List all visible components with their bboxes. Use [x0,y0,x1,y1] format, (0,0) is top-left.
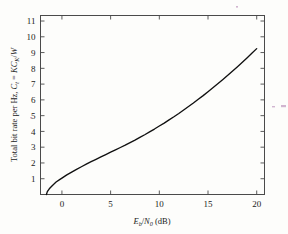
y-axis-title: Total bit rate per Hz, Ct = KCK/W [9,47,20,162]
x-tick-label: 15 [204,199,214,209]
x-tick-label: 10 [155,199,165,209]
y-tick-label: 9 [31,48,36,58]
shannon-capacity-chart: 05101520 1234567891011 Eb/N0 (dB) Total … [0,0,288,234]
chart-figure: 05101520 1234567891011 Eb/N0 (dB) Total … [0,0,288,234]
ylabel-equals: = [9,73,19,82]
y-tick-label: 4 [31,127,36,137]
y-tick-label: 1 [31,174,36,184]
y-tick-label: 7 [31,79,36,89]
y-tick-label: 6 [31,95,36,105]
y-tick-label: 2 [31,158,36,168]
y-tick-label: 11 [27,16,36,26]
y-tick-label: 5 [31,111,36,121]
y-tick-label: 10 [27,32,37,42]
figure-background [0,0,288,234]
svg-text:Total bit rate per Hz, Ct = KC: Total bit rate per Hz, Ct = KCK/W [9,47,20,162]
ylabel-var-w: W [9,47,19,55]
ylabel-lead: Total bit rate per Hz, [9,89,19,162]
xlabel-unit: (dB) [153,216,171,226]
x-tick-label: 5 [108,199,113,209]
x-tick-label: 20 [252,199,262,209]
y-tick-label: 8 [31,64,36,74]
x-tick-label: 0 [60,199,65,209]
y-tick-label: 3 [31,142,36,152]
